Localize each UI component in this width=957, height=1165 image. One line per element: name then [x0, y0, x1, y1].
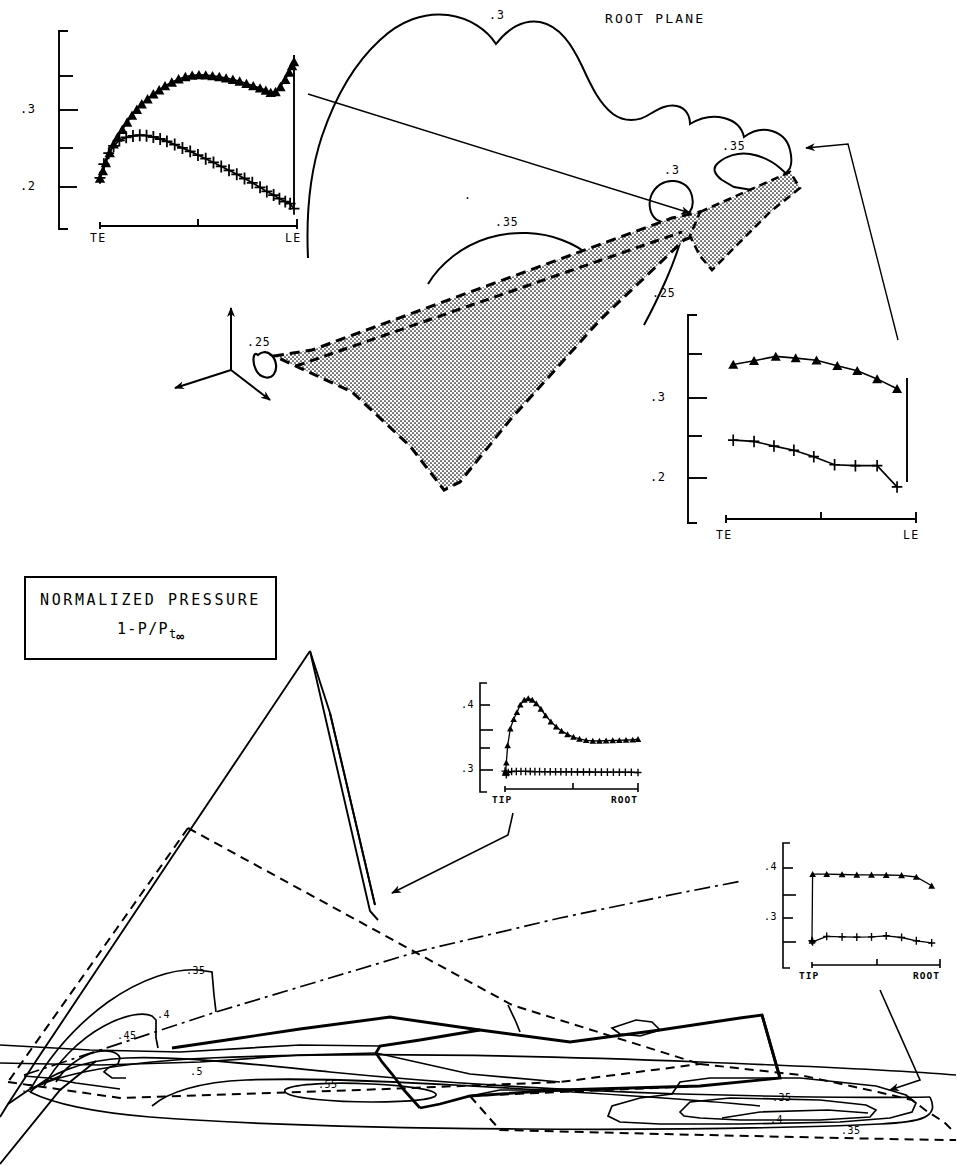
chart-lr-series — [808, 871, 935, 947]
leader-m-chart — [392, 813, 513, 893]
plot-ul-marker-triangle — [289, 57, 299, 66]
plot-r-marker-plus — [789, 445, 800, 457]
chart-m-ytick-0_3: .3 — [461, 764, 474, 774]
plot-m-marker-plus — [586, 768, 593, 776]
contour-label-lower-7: .4 — [770, 1115, 783, 1125]
plot-m-marker-plus — [635, 769, 642, 777]
lower-right-contours — [608, 1078, 916, 1124]
plot-m-marker-plus — [592, 768, 599, 776]
plot-r-marker-plus — [829, 459, 840, 471]
plot-r-marker-plus — [769, 440, 780, 452]
contour-label-upper-2: .3 — [664, 165, 680, 177]
plot-r-marker-plus — [749, 436, 760, 448]
contour-label-upper-0: .3 — [489, 10, 505, 22]
plot-r-marker-plus — [728, 434, 739, 446]
contour-label-upper-6: . — [464, 190, 472, 202]
plot-r-marker-triangle — [892, 384, 902, 393]
chart-r-xtick-te: TE — [716, 530, 732, 542]
plot-m-marker-triangle — [503, 760, 510, 766]
chart-ul-axes — [59, 31, 297, 229]
legend-line-2: 1-P/Pt∞ — [26, 620, 275, 644]
legend-formula-infinity: ∞ — [176, 629, 184, 644]
shaded-wing-planform — [274, 212, 714, 490]
chart-ul-ytick-0_2: .2 — [20, 180, 35, 192]
contour-label-lower-3: .5 — [190, 1067, 203, 1077]
plot-m-marker-plus — [568, 768, 575, 776]
plot-m-marker-plus — [574, 768, 581, 776]
plot-m-marker-plus — [616, 768, 623, 776]
contour-label-lower-5: .3 — [21, 1084, 34, 1094]
legend-formula-main: 1-P/P — [117, 620, 169, 638]
normalized-pressure-legend: NORMALIZED PRESSURE 1-P/Pt∞ — [24, 576, 277, 660]
plot-m-marker-triangle — [504, 742, 511, 748]
contour-label-lower-6: .35 — [772, 1093, 792, 1103]
chart-lr-axes — [783, 843, 940, 968]
plot-m-marker-plus — [598, 768, 605, 776]
contour-label-upper-1: .35 — [722, 141, 746, 153]
plot-r-marker-plus — [809, 451, 820, 463]
plot-lr-marker-plus — [853, 933, 860, 941]
chart-r-axes — [688, 315, 916, 523]
plot-lr-marker-plus — [823, 932, 830, 940]
chart-ul-xtick-le: LE — [285, 233, 301, 245]
chart-m-xtick-tip: TIP — [492, 795, 512, 805]
figure-canvas: ROOT PLANE .3.35.3.35.25.25. .35.4.45.5.… — [0, 0, 957, 1165]
chart-ul-ytick-0_3: .3 — [20, 103, 35, 115]
contour-label-lower-1: .4 — [157, 1010, 170, 1020]
chart-lr-ytick-0_4: .4 — [764, 862, 777, 872]
chart-r-ytick-0_2: .2 — [650, 471, 665, 483]
contour-label-upper-5: .25 — [247, 337, 271, 349]
plot-ul-marker-plus — [161, 135, 172, 147]
plot-m-marker-plus — [580, 768, 587, 776]
contour-label-lower-8: .35 — [841, 1126, 861, 1136]
contour-label-upper-4: .25 — [652, 288, 676, 300]
plot-lr-marker-plus — [898, 934, 905, 942]
plot-ul-marker-plus — [141, 130, 152, 142]
chart-m-series — [502, 695, 642, 778]
plot-r-marker-triangle — [872, 374, 882, 383]
chart-r-xtick-le: LE — [903, 530, 919, 542]
plot-r-marker-plus — [850, 460, 861, 472]
plot-m-marker-plus — [610, 768, 617, 776]
plot-ul-line-lower-surface — [100, 135, 294, 209]
leader-lr-chart — [880, 990, 920, 1090]
chart-ul-series — [95, 57, 300, 215]
chart-m-ytick-0_4: .4 — [461, 700, 474, 710]
lower-fin-outline — [310, 651, 378, 920]
plot-lr-marker-plus — [868, 933, 875, 941]
plot-ul-marker-plus — [103, 147, 114, 159]
contour-label-lower-0: .35 — [186, 966, 206, 976]
plot-m-line-upper-surface — [505, 699, 638, 773]
plot-lr-marker-plus — [809, 938, 816, 946]
plot-m-marker-triangle — [570, 734, 577, 740]
plot-lr-marker-triangle — [928, 883, 935, 889]
plot-lr-marker-plus — [839, 933, 846, 941]
plot-ul-marker-plus — [280, 196, 291, 208]
plot-m-marker-plus — [622, 768, 629, 776]
plot-lr-marker-plus — [928, 939, 935, 947]
plot-m-marker-triangle — [514, 709, 521, 715]
leader-r-chart — [806, 144, 898, 340]
plot-m-marker-plus — [628, 768, 635, 776]
chart-r-ytick-0_3: .3 — [650, 391, 665, 403]
plot-m-marker-triangle — [507, 725, 514, 731]
chart-lr-xtick-tip: TIP — [799, 971, 819, 981]
chart-lr-ytick-0_3: .3 — [764, 912, 777, 922]
plot-lr-marker-plus — [883, 932, 890, 940]
contour-label-upper-3: .35 — [495, 217, 519, 229]
plot-m-marker-plus — [604, 768, 611, 776]
contour-label-lower-4: .55 — [318, 1080, 338, 1090]
legend-line-1: NORMALIZED PRESSURE — [26, 591, 275, 609]
leader-ul-chart — [308, 94, 690, 213]
plot-m-marker-triangle — [510, 716, 517, 722]
plot-lr-marker-plus — [913, 937, 920, 945]
chart-ul-xtick-te: TE — [90, 233, 106, 245]
root-plane-title: ROOT PLANE — [605, 12, 705, 25]
chart-m-xtick-root: ROOT — [611, 795, 638, 805]
plot-ul-marker-plus — [155, 133, 166, 145]
plot-lr-line-upper-surface — [812, 874, 932, 941]
plot-r-line-lower-surface — [733, 440, 897, 487]
lower-contours — [24, 970, 956, 1130]
plot-ul-marker-plus — [148, 131, 159, 143]
shaded-wing-sliver-upper — [690, 172, 800, 270]
